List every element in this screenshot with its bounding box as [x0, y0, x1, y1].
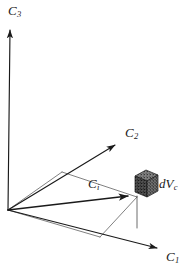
axis-label-c3-base: C: [8, 3, 17, 18]
position-vector: [8, 196, 128, 210]
diagram-svg: [0, 0, 186, 273]
vector-label-ci: Ci: [88, 177, 99, 192]
axis-label-c2-base: C: [125, 125, 134, 140]
projection-parallelogram: [8, 172, 137, 237]
vector-label-ci-base: C: [88, 176, 97, 191]
vertical-axis: [8, 30, 10, 210]
axis-label-c1-base: C: [166, 249, 175, 264]
figure-canvas: C3 C2 C1 Ci dVc: [0, 0, 186, 273]
axis-label-c1: C1: [166, 250, 179, 265]
axis-label-c2-sub: 2: [134, 131, 139, 141]
volume-element-label-sub: c: [173, 182, 177, 192]
axis-label-c2: C2: [125, 126, 138, 141]
horizontal-axis: [8, 210, 157, 248]
axis-label-c3-sub: 3: [17, 9, 22, 19]
vector-label-ci-sub: i: [97, 182, 100, 192]
volume-element-cube: [135, 170, 158, 197]
volume-element-label-base: dV: [159, 176, 173, 191]
axis-label-c1-sub: 1: [175, 255, 180, 265]
volume-element-label: dVc: [159, 177, 178, 192]
axis-label-c3: C3: [8, 4, 21, 19]
